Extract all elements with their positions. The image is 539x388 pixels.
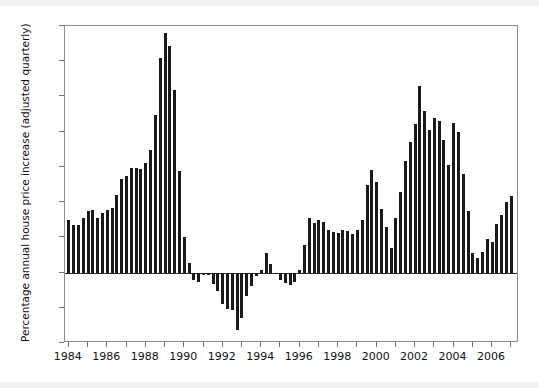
bar [115,195,118,272]
x-tick-mark [183,342,184,347]
x-tick-mark [241,342,242,347]
plot-area [64,25,518,342]
bar [159,58,162,272]
bar [399,192,402,272]
x-tick-mark [376,342,377,347]
bar [67,220,70,272]
bar [370,170,373,272]
bar [149,150,152,273]
bar [202,273,205,275]
bar [308,218,311,272]
bar [510,196,513,272]
x-tick-label: 1994 [240,350,280,363]
bar [221,273,224,304]
bar [433,118,436,273]
bar [404,161,407,272]
bar [144,163,147,273]
bar [279,273,282,280]
bar [442,140,445,272]
bar [164,33,167,273]
x-tick-mark [472,342,473,347]
x-tick-mark [279,342,280,347]
bars-layer [65,26,517,341]
bar [471,253,474,273]
x-tick-mark [203,342,204,347]
x-tick-label: 2006 [471,350,511,363]
bar [481,252,484,272]
x-tick-mark [318,342,319,347]
bar [476,258,479,272]
bar [96,218,99,273]
bar [125,176,128,273]
x-tick-mark [356,342,357,347]
bar [265,253,268,273]
y-axis-label-holder: Percentage annual house price increase (… [16,342,17,343]
x-tick-mark [414,342,415,347]
bar [486,239,489,273]
bar [87,211,90,273]
bar [212,273,215,284]
bar [351,234,354,273]
bar [178,171,181,272]
bar [135,168,138,272]
x-tick-mark [68,342,69,347]
bar [452,123,455,272]
bar [91,210,94,273]
bar [457,132,460,273]
bar [418,86,421,273]
bar [428,130,431,272]
x-tick-mark [164,342,165,347]
x-tick-label: 1990 [163,350,203,363]
bar [409,142,412,273]
x-tick-label: 1992 [202,350,242,363]
bar [375,182,378,272]
bar [77,225,80,273]
bar [462,174,465,273]
bar [423,111,426,273]
bar [245,273,248,297]
bar [327,230,330,273]
bar [111,208,114,273]
bar [467,211,470,273]
bar [303,245,306,272]
bar [298,270,301,272]
bar [380,209,383,272]
bar [438,121,441,272]
bar [274,273,277,274]
bar [240,273,243,318]
bar [139,169,142,273]
x-tick-mark [510,342,511,347]
x-tick-label: 1984 [48,350,88,363]
bar [216,273,219,291]
bar [284,273,287,284]
x-tick-label: 1986 [86,350,126,363]
bar [72,225,75,272]
bar [173,90,176,272]
bar [130,168,133,273]
bar [447,165,450,273]
x-tick-label: 1988 [125,350,165,363]
x-tick-mark [145,342,146,347]
bar [101,213,104,273]
x-tick-mark [491,342,492,347]
bar [394,218,397,273]
bar [236,273,239,331]
bar [289,273,292,286]
bar [82,218,85,272]
bar [414,124,417,273]
bar [188,263,191,273]
bar [385,227,388,273]
x-tick-label: 1996 [279,350,319,363]
bar [250,273,253,286]
figure-bottom-edge-strip [0,382,539,388]
bar [366,185,369,273]
house-price-bar-chart-figure: Percentage annual house price increase (… [0,0,539,388]
bar [154,115,157,273]
x-tick-label: 2002 [394,350,434,363]
bar [495,224,498,273]
bar [356,230,359,272]
bar [500,215,503,273]
bar [207,273,210,275]
bar [168,46,171,273]
bar [106,210,109,273]
